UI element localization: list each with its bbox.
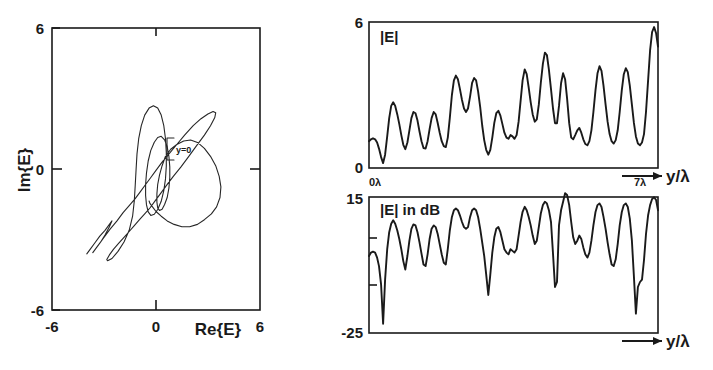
y-zero-annotation: y=0 <box>176 145 191 155</box>
figure-canvas: 6 0 -6 -6 0 6 Im{E} Re{E} y=0 6 0 |E| 0λ… <box>0 0 713 370</box>
figure-svg: 6 0 -6 -6 0 6 Im{E} Re{E} y=0 6 0 |E| 0λ… <box>0 0 713 370</box>
decibel-ytick-label-top: 15 <box>346 190 363 207</box>
hodograph-xtick-label-min: -6 <box>45 318 58 335</box>
magnitude-frame <box>369 22 658 168</box>
magnitude-axis-arrow-head <box>653 172 662 180</box>
magnitude-curve <box>369 27 658 163</box>
magnitude-ytick-label-top: 6 <box>355 14 363 31</box>
magnitude-panel: 6 0 |E| 0λ 7λ y/λ <box>355 14 691 188</box>
hodograph-ytick-label-bottom: -6 <box>31 302 44 319</box>
hodograph-xlabel: Re{E} <box>195 320 242 339</box>
decibel-panel-label: |E| in dB <box>380 201 440 218</box>
magnitude-xtick-label-start: 0λ <box>369 176 381 188</box>
decibel-ytick-label-bottom: -25 <box>341 324 363 341</box>
decibel-axis-arrow-head <box>653 337 662 345</box>
hodograph-frame <box>52 28 260 310</box>
hodograph-ylabel: Im{E} <box>15 147 34 192</box>
hodograph-xtick-label-mid: 0 <box>152 318 160 335</box>
magnitude-ytick-label-bottom: 0 <box>355 159 363 176</box>
hodograph-ytick-label-mid: 0 <box>36 161 44 178</box>
hodograph-panel: 6 0 -6 -6 0 6 Im{E} Re{E} y=0 <box>15 20 264 339</box>
hodograph-xtick-label-max: 6 <box>256 318 264 335</box>
magnitude-xlabel: y/λ <box>666 167 690 186</box>
hodograph-ytick-label-top: 6 <box>36 20 44 37</box>
magnitude-xtick-label-end: 7λ <box>634 176 646 188</box>
decibel-panel: 15 -25 |E| in dB y/λ <box>341 190 690 351</box>
magnitude-panel-label: |E| <box>380 28 398 45</box>
decibel-xlabel: y/λ <box>666 332 690 351</box>
hodograph-curve <box>87 106 221 261</box>
